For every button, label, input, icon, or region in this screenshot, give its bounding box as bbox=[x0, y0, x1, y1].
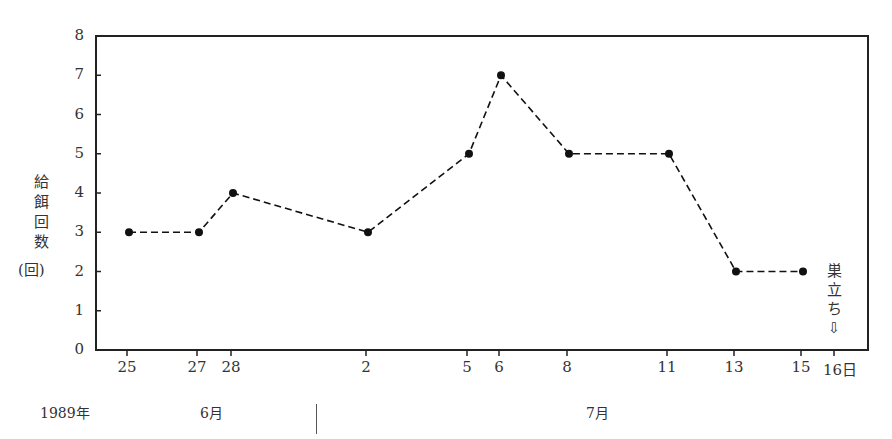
plot-frame bbox=[96, 36, 868, 350]
y-axis-label: 給 餌 回 数 bbox=[30, 172, 52, 252]
y-label-char: 回 bbox=[30, 212, 52, 232]
y-tick-label: 7 bbox=[64, 65, 84, 83]
y-tick-label: 5 bbox=[64, 144, 84, 162]
x-tick-label: 5 bbox=[462, 358, 472, 376]
month-label-june: 6月 bbox=[200, 402, 223, 422]
x-tick-label: 16日 bbox=[823, 358, 857, 379]
data-point bbox=[565, 150, 573, 158]
annotation-char: ち bbox=[826, 300, 842, 319]
annotation-char: 立 bbox=[826, 281, 842, 300]
annotation-char: 巣 bbox=[826, 262, 842, 281]
x-tick-label: 11 bbox=[657, 358, 676, 376]
data-point bbox=[364, 228, 372, 236]
data-point bbox=[799, 268, 807, 276]
x-tick-label: 25 bbox=[117, 358, 136, 376]
y-tick-label: 8 bbox=[64, 26, 84, 44]
y-tick-label: 6 bbox=[64, 105, 84, 123]
data-point bbox=[229, 189, 237, 197]
y-label-char: 数 bbox=[30, 232, 52, 252]
x-tick-label: 13 bbox=[724, 358, 743, 376]
data-point bbox=[732, 268, 740, 276]
y-label-char: 餌 bbox=[30, 192, 52, 212]
y-tick-label: 1 bbox=[64, 301, 84, 319]
data-point bbox=[195, 228, 203, 236]
down-arrow-icon: ⇩ bbox=[826, 319, 842, 338]
x-tick-label: 27 bbox=[187, 358, 206, 376]
month-label-july: 7月 bbox=[586, 402, 609, 422]
year-label: 1989年 bbox=[40, 402, 90, 422]
x-tick-label: 15 bbox=[791, 358, 810, 376]
x-tick-label: 28 bbox=[221, 358, 240, 376]
month-divider bbox=[316, 404, 317, 434]
y-label-char: 給 bbox=[30, 172, 52, 192]
y-tick-label: 4 bbox=[64, 183, 84, 201]
data-point bbox=[665, 150, 673, 158]
data-point bbox=[125, 228, 133, 236]
y-tick-label: 3 bbox=[64, 222, 84, 240]
x-tick-label: 8 bbox=[562, 358, 572, 376]
x-tick-label: 6 bbox=[494, 358, 504, 376]
y-tick-label: 0 bbox=[64, 340, 84, 358]
data-point bbox=[497, 71, 505, 79]
data-points bbox=[125, 71, 807, 275]
fledging-annotation: 巣 立 ち ⇩ bbox=[826, 262, 842, 338]
y-tick-label: 2 bbox=[64, 262, 84, 280]
data-point bbox=[465, 150, 473, 158]
x-tick-label: 2 bbox=[361, 358, 371, 376]
y-axis-unit: (回) bbox=[18, 258, 45, 279]
series-line bbox=[129, 75, 803, 271]
